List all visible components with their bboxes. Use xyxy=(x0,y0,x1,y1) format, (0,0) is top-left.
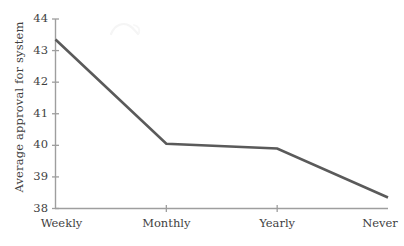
x-axis-tick-labels: WeeklyMonthlyYearlyNever xyxy=(0,214,404,238)
data-series-line xyxy=(56,40,389,198)
x-tick-label: Weekly xyxy=(41,214,83,232)
plot-area xyxy=(0,0,404,246)
x-tick-label: Monthly xyxy=(142,214,190,232)
chart-figure: Average approval for system 383940414243… xyxy=(0,0,404,246)
x-tick-label: Never xyxy=(362,214,398,232)
x-tick-label: Yearly xyxy=(259,214,295,232)
